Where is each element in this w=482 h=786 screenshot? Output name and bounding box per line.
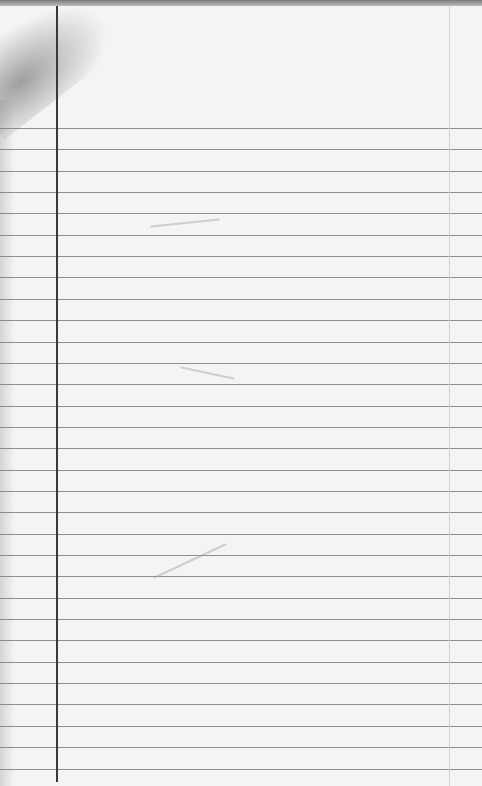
ruled-line — [0, 213, 482, 214]
right-margin-line — [449, 6, 450, 786]
lined-paper — [0, 0, 482, 786]
ruled-line — [0, 149, 482, 150]
ruled-line — [0, 470, 482, 471]
ruled-line — [0, 192, 482, 193]
ruled-line — [0, 769, 482, 770]
ruled-line — [0, 598, 482, 599]
pencil-smudge — [153, 543, 226, 579]
ruled-line — [0, 320, 482, 321]
ruled-line — [0, 406, 482, 407]
ruled-line — [0, 171, 482, 172]
ruled-line — [0, 299, 482, 300]
ruled-line — [0, 448, 482, 449]
pencil-smudge — [150, 218, 220, 227]
ruled-line — [0, 128, 482, 129]
margin-line — [56, 6, 58, 782]
ruled-line — [0, 534, 482, 535]
ruled-line — [0, 512, 482, 513]
ruled-line — [0, 555, 482, 556]
ruled-line — [0, 662, 482, 663]
ruled-line — [0, 726, 482, 727]
ruled-line — [0, 427, 482, 428]
ruled-line — [0, 256, 482, 257]
corner-shadow — [0, 0, 131, 140]
ruled-line — [0, 384, 482, 385]
ruled-line — [0, 342, 482, 343]
ruled-line — [0, 363, 482, 364]
ruled-line — [0, 619, 482, 620]
ruled-line — [0, 576, 482, 577]
ruled-line — [0, 277, 482, 278]
ruled-line — [0, 235, 482, 236]
ruled-line — [0, 640, 482, 641]
pencil-smudge — [180, 366, 234, 379]
ruled-line — [0, 747, 482, 748]
ruled-line — [0, 704, 482, 705]
ruled-line — [0, 683, 482, 684]
ruled-line — [0, 491, 482, 492]
